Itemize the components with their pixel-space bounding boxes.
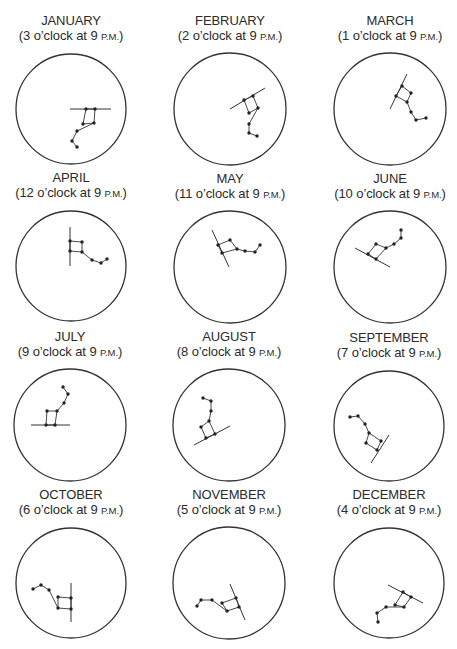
dipper-bowl [244,96,258,113]
star-icon [399,228,402,231]
star-icon [53,423,56,426]
star-icon [237,605,240,608]
star-icon [201,396,204,399]
star-icon [216,243,219,246]
star-icon [375,448,378,451]
star-icon [356,414,359,417]
star-icon [384,246,387,249]
sky-panel-february [174,53,286,165]
star-icon [44,423,47,426]
sky-horizon-circle [16,211,126,321]
dipper-handle [72,123,94,147]
sky-panel-january [16,54,126,164]
dipper-handle [33,585,58,608]
star-icon [348,415,351,418]
star-icon [81,122,84,125]
star-icon [228,238,231,241]
star-icon [255,134,258,137]
star-icon [367,431,370,434]
star-icon [69,607,72,610]
sky-panel-august [173,369,285,481]
star-icon [409,91,412,94]
pointer-line [355,248,390,267]
star-icon [39,583,42,586]
star-icon [253,250,256,253]
star-icon [394,94,397,97]
sky-panel-december [334,528,444,638]
sky-horizon-circle [173,527,285,639]
star-icon [243,249,246,252]
star-icon [68,239,71,242]
star-icon [405,100,408,103]
sky-diagrams [0,0,457,649]
dipper-bowl [366,433,381,450]
dipper-bowl [218,240,237,253]
star-icon [99,261,102,264]
star-icon [92,121,95,124]
dipper-handle [377,607,404,622]
star-icon [414,118,417,121]
sky-panel-november [173,527,285,639]
star-icon [45,409,48,412]
star-icon [199,425,202,428]
star-icon [364,441,367,444]
star-icon [68,249,71,252]
star-icon [247,131,250,134]
sky-panel-march [334,53,446,165]
star-icon [69,596,72,599]
star-icon [374,257,377,260]
star-icon [366,252,369,255]
sky-panel-june [334,211,446,323]
pointer-line [212,230,229,267]
star-icon [392,242,395,245]
star-icon [70,139,73,142]
sky-panel-april [16,211,126,321]
star-icon [62,401,65,404]
star-icon [247,122,250,125]
star-icon [242,98,245,101]
sky-panel-october [16,528,126,638]
star-icon [399,236,402,239]
pointer-line [371,435,389,463]
star-icon [235,247,238,250]
star-icon [195,604,198,607]
star-icon [374,242,377,245]
dipper-handle [82,252,107,263]
star-icon [90,258,93,261]
dipper-handle [237,245,260,252]
dipper-bowl [395,592,411,607]
dipper-bowl [46,411,57,425]
star-icon [55,409,58,412]
star-icon [402,605,405,608]
star-icon [93,107,96,110]
star-icon [31,587,34,590]
star-icon [258,243,261,246]
dipper-bowl [70,241,82,252]
star-icon [375,611,378,614]
sky-horizon-circle [334,371,444,481]
dipper-handle [57,387,68,411]
star-icon [376,620,379,623]
star-icon [47,588,50,591]
star-icon [56,595,59,598]
dipper-bowl [58,597,71,609]
star-icon [61,385,64,388]
sky-horizon-circle [174,211,286,323]
sky-panel-may [174,211,286,323]
star-icon [207,419,210,422]
star-icon [209,409,212,412]
star-icon [247,111,250,114]
star-icon [56,606,59,609]
star-icon [84,107,87,110]
star-icon [400,84,403,87]
star-icon [379,439,382,442]
star-icon [210,598,213,601]
sky-horizon-circle [334,528,444,638]
star-icon [363,422,366,425]
star-icon [409,595,412,598]
star-icon [220,601,223,604]
star-icon [75,129,78,132]
sky-panel-july [14,369,126,481]
star-icon [384,605,387,608]
star-icon [256,106,259,109]
